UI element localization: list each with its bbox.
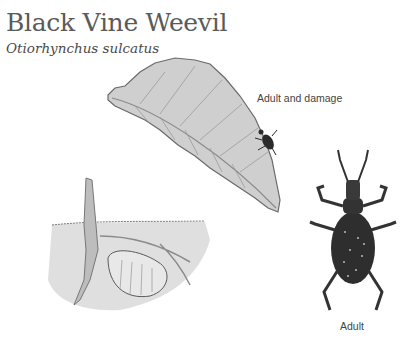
leaf-illustration <box>108 58 280 212</box>
adult-weevil-illustration <box>310 150 396 310</box>
adult-and-damage-caption: Adult and damage <box>257 92 342 104</box>
illustration-canvas <box>0 0 406 340</box>
adult-caption: Adult <box>340 320 364 332</box>
larva-in-soil-illustration <box>48 178 210 310</box>
